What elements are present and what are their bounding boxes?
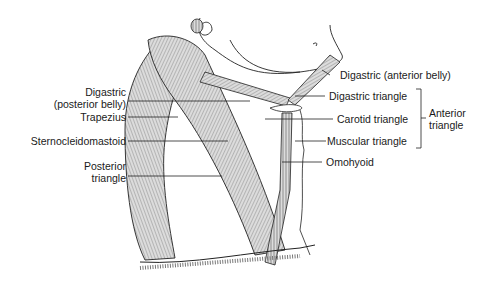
- omohyoid-muscle: [265, 113, 292, 265]
- label-line: Digastric: [20, 86, 126, 98]
- label-line: Trapezius: [20, 111, 126, 123]
- label-carotid-triangle: Carotid triangle: [337, 113, 408, 125]
- label-sternocleidomastoid: Sternocleidomastoid: [0, 135, 126, 147]
- label-digastric-anterior: Digastric (anterior belly): [340, 69, 451, 81]
- label-digastric-posterior: Digastric (posterior belly): [20, 86, 126, 110]
- label-line: triangle: [429, 119, 466, 131]
- label-line: Sternocleidomastoid: [0, 135, 126, 147]
- label-anterior-triangle-group: Anterior triangle: [429, 107, 466, 131]
- label-line: Anterior: [429, 107, 466, 119]
- hyoid-bone: [270, 105, 302, 112]
- label-trapezius: Trapezius: [20, 111, 126, 123]
- label-muscular-triangle: Muscular triangle: [327, 135, 407, 147]
- ear-icon: [191, 19, 203, 33]
- larynx-outline: [300, 110, 310, 255]
- label-line: Posterior: [20, 160, 126, 172]
- label-omohyoid: Omohyoid: [326, 156, 374, 168]
- label-line: Digastric triangle: [329, 90, 407, 102]
- label-line: Digastric (anterior belly): [340, 69, 451, 81]
- label-line: Omohyoid: [326, 156, 374, 168]
- label-line: triangle: [20, 172, 126, 184]
- label-line: (posterior belly): [20, 98, 126, 110]
- label-posterior-triangle: Posterior triangle: [20, 160, 126, 184]
- label-line: Muscular triangle: [327, 135, 407, 147]
- neck-anatomy-illustration: [0, 0, 486, 302]
- label-digastric-triangle: Digastric triangle: [329, 90, 407, 102]
- label-line: Carotid triangle: [337, 113, 408, 125]
